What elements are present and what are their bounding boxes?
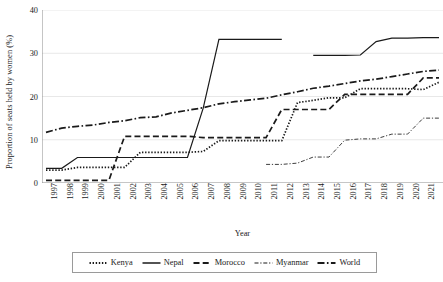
x-tick-label: 2018	[380, 183, 390, 200]
chart-legend: KenyaNepalMoroccoMyanmarWorld	[72, 252, 377, 273]
x-tick-label: 2019	[396, 183, 406, 200]
series-line-world	[46, 70, 439, 132]
y-tick-label: 10	[14, 135, 38, 144]
legend-swatch-icon	[142, 259, 161, 267]
series-line-myanmar	[266, 118, 439, 164]
legend-label: World	[339, 258, 360, 268]
legend-label: Nepal	[164, 258, 184, 268]
x-tick-label: 2012	[286, 183, 296, 200]
legend-item-kenya[interactable]: Kenya	[89, 258, 133, 268]
legend-item-world[interactable]: World	[317, 258, 360, 268]
x-tick-label: 2017	[364, 183, 374, 200]
x-tick-label: 2015	[333, 183, 343, 200]
legend-label: Kenya	[111, 258, 133, 268]
legend-swatch-icon	[254, 259, 273, 267]
x-tick-label: 2007	[207, 183, 217, 200]
series-line-nepal	[46, 39, 282, 168]
legend-swatch-icon	[89, 259, 108, 267]
x-tick-label: 2008	[223, 183, 233, 200]
x-tick-label: 2005	[176, 183, 186, 200]
y-tick-label: 20	[14, 92, 38, 101]
series-line-morocco	[46, 78, 439, 181]
x-tick-label: 2020	[412, 183, 422, 200]
y-axis-tick-labels: 010203040	[14, 0, 38, 282]
legend-item-myanmar[interactable]: Myanmar	[254, 258, 309, 268]
legend-item-morocco[interactable]: Morocco	[193, 258, 245, 268]
x-tick-label: 2009	[239, 183, 249, 200]
x-tick-label: 1998	[66, 183, 76, 200]
x-tick-label: 2001	[113, 183, 123, 200]
x-tick-label: 2010	[254, 183, 264, 200]
plot-area	[42, 10, 443, 183]
x-tick-label: 2002	[129, 183, 139, 200]
x-axis-title: Year	[42, 229, 443, 238]
x-tick-label: 2021	[427, 183, 437, 200]
legend-swatch-icon	[317, 259, 336, 267]
legend-label: Morocco	[215, 258, 245, 268]
y-tick-label: 0	[14, 179, 38, 188]
legend-swatch-icon	[193, 259, 212, 267]
x-tick-label: 2014	[317, 183, 327, 200]
chart-container: Proportion of seats held by women (%) 01…	[0, 0, 443, 282]
series-line-kenya	[46, 82, 439, 170]
x-tick-label: 2006	[191, 183, 201, 200]
x-tick-label: 2011	[270, 183, 280, 199]
y-tick-label: 30	[14, 49, 38, 58]
x-tick-label: 2016	[349, 183, 359, 200]
x-tick-label: 1997	[50, 183, 60, 200]
x-tick-label: 2003	[144, 183, 154, 200]
x-tick-label: 2013	[302, 183, 312, 200]
x-tick-label: 1999	[81, 183, 91, 200]
legend-item-nepal[interactable]: Nepal	[142, 258, 184, 268]
x-tick-label: 2004	[160, 183, 170, 200]
y-tick-label: 40	[14, 6, 38, 15]
legend-label: Myanmar	[276, 258, 309, 268]
x-tick-label: 2000	[97, 183, 107, 200]
x-axis-tick-labels: 1997199819992000200120022003200420052006…	[42, 183, 443, 229]
